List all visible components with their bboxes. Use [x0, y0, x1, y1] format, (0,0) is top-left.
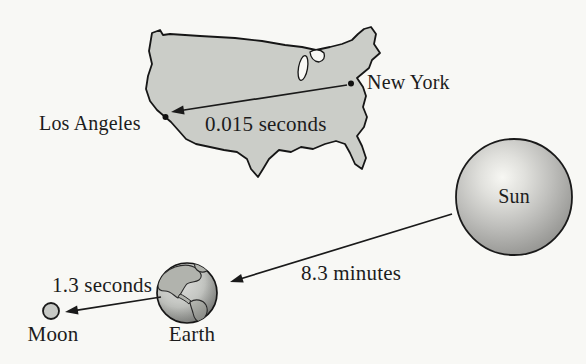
time-earth-to-moon-label: 1.3 seconds: [52, 274, 152, 297]
moon-label: Moon: [28, 323, 79, 346]
earth-to-moon-light-arrow: [65, 297, 161, 314]
earth-label: Earth: [169, 323, 215, 346]
earth-globe: [157, 263, 217, 323]
new-york-dot: [348, 81, 354, 87]
usa-outline: [146, 27, 380, 177]
moon-sphere: [43, 303, 59, 319]
sun-label: Sun: [498, 185, 530, 207]
new-york-label: New York: [367, 71, 450, 93]
light-travel-diagram: Los Angeles New York 0.015 seconds Sun 8…: [0, 0, 586, 364]
los-angeles-dot: [163, 114, 169, 120]
diagram-canvas: [0, 0, 586, 364]
los-angeles-label: Los Angeles: [39, 112, 141, 134]
time-sun-to-earth-label: 8.3 minutes: [301, 262, 401, 285]
usa-map: [146, 27, 380, 177]
time-ny-to-la-label: 0.015 seconds: [205, 113, 327, 136]
earth-shading: [157, 263, 217, 323]
